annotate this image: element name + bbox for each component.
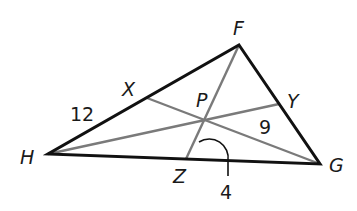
diagram-canvas: F G H X Y Z P 12 9 4 — [0, 0, 357, 211]
measure-label-12: 12 — [70, 105, 94, 124]
measure-label-9: 9 — [259, 118, 271, 137]
measure-arc — [199, 139, 228, 176]
point-label-Z: Z — [173, 167, 186, 186]
vertex-label-H: H — [20, 148, 34, 167]
intersection-label-P: P — [196, 91, 207, 110]
measure-label-4: 4 — [220, 183, 232, 202]
vertex-label-G: G — [329, 156, 344, 175]
point-label-X: X — [122, 80, 135, 99]
point-label-Y: Y — [287, 92, 299, 111]
vertex-label-F: F — [233, 19, 244, 38]
segment-FZ — [186, 45, 239, 159]
